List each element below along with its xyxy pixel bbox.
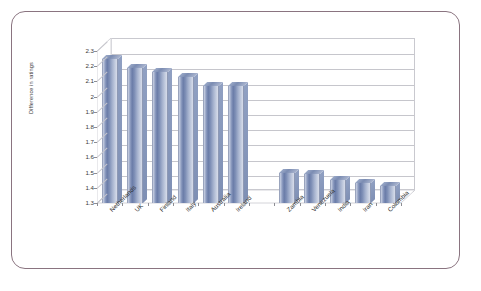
y-tick-mark <box>94 203 97 204</box>
bar-chart: Difference in ratings 2.32.22.121.91.81.… <box>0 0 481 291</box>
y-tick-mark <box>94 157 97 158</box>
y-tick-mark <box>94 173 97 174</box>
x-tick-mark <box>325 203 326 206</box>
x-tick-label: Zambia <box>285 193 305 213</box>
x-tick-mark <box>376 203 377 206</box>
x-axis-tick-labels: NetherlandsUKFinlandItalyAustraliaIrelan… <box>0 0 481 291</box>
x-tick-mark <box>148 203 149 206</box>
x-tick-label: Australia <box>209 190 232 213</box>
x-tick-mark <box>300 203 301 206</box>
y-tick-mark <box>94 112 97 113</box>
x-tick-label: Ireland <box>234 194 253 213</box>
x-tick-mark <box>350 203 351 206</box>
x-tick-mark <box>173 203 174 206</box>
x-tick-label: India <box>336 198 351 213</box>
y-tick-mark <box>94 81 97 82</box>
y-tick-mark <box>94 97 97 98</box>
x-tick-label: Italy <box>184 200 197 213</box>
x-tick-label: UK <box>133 202 144 213</box>
x-tick-mark <box>97 203 98 206</box>
x-tick-label: Iran <box>361 200 374 213</box>
y-tick-mark <box>94 142 97 143</box>
x-tick-label: Venezuela <box>310 187 336 213</box>
x-tick-label: Finland <box>158 193 178 213</box>
x-tick-mark <box>224 203 225 206</box>
x-tick-mark <box>249 203 250 206</box>
y-tick-mark <box>94 127 97 128</box>
x-tick-mark <box>198 203 199 206</box>
y-tick-mark <box>94 188 97 189</box>
x-tick-mark <box>401 203 402 206</box>
x-tick-mark <box>274 203 275 206</box>
x-tick-mark <box>122 203 123 206</box>
x-tick-label: Colombia <box>386 189 410 213</box>
y-tick-mark <box>94 66 97 67</box>
y-tick-mark <box>94 51 97 52</box>
